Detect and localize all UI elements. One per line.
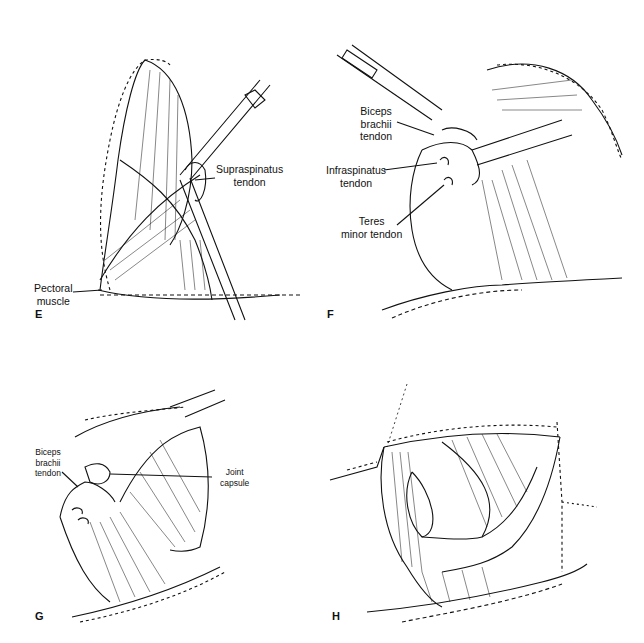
panel-letter-f: F xyxy=(327,308,334,320)
panel-e-illustration xyxy=(0,0,322,322)
label-pectoral-muscle: Pectoral muscle xyxy=(34,282,73,307)
panel-h-illustration xyxy=(322,322,644,643)
panel-h: H xyxy=(322,322,644,643)
panel-letter-g: G xyxy=(35,610,44,622)
panel-e: Supraspinatus tendon Pectoral muscle E xyxy=(0,0,322,322)
label-biceps-brachii-tendon-g: Biceps brachii tendon xyxy=(35,447,61,479)
panel-f: Biceps brachii tendon Infraspinatus tend… xyxy=(322,0,644,322)
panel-f-illustration xyxy=(322,0,644,322)
label-teres-minor-tendon: Teres minor tendon xyxy=(341,215,402,240)
label-biceps-brachii-tendon: Biceps brachii tendon xyxy=(360,105,392,143)
panel-g: Biceps brachii tendon Joint capsule G xyxy=(0,322,322,643)
panel-g-illustration xyxy=(0,322,322,643)
label-infraspinatus-tendon: Infraspinatus tendon xyxy=(326,164,386,189)
label-supraspinatus-tendon: Supraspinatus tendon xyxy=(216,163,283,188)
label-joint-capsule: Joint capsule xyxy=(220,467,249,488)
panel-letter-e: E xyxy=(35,308,42,320)
panel-letter-h: H xyxy=(332,610,340,622)
